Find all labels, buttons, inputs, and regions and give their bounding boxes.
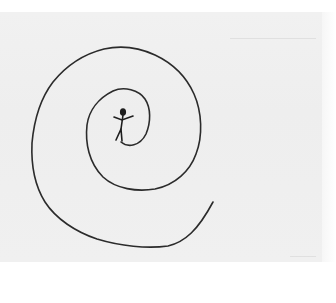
stick-figure bbox=[114, 109, 133, 141]
stick-figure-head bbox=[121, 109, 126, 115]
spiral-line bbox=[32, 47, 213, 247]
stick-figure-legs bbox=[116, 129, 122, 141]
stick-figure-body bbox=[121, 115, 123, 129]
sketch-drawing bbox=[0, 0, 336, 303]
